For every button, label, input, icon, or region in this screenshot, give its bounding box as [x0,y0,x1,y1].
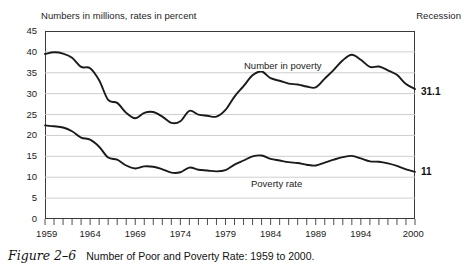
chart-units-note: Numbers in millions, rates in percent [41,10,197,22]
series-line-number-in-poverty [45,52,415,123]
x-axis-tick-label: 1984 [260,228,281,239]
x-axis-tick-label: 2000 [403,228,424,239]
y-axis-tick-label: 30 [26,89,37,99]
y-axis-tick-label: 20 [26,130,37,140]
end-value-number-in-poverty: 31.1 [421,86,440,97]
y-axis-tick-label: 40 [26,47,37,57]
chart: Numbers in millions, rates in percent Re… [0,0,472,243]
series-line-poverty-rate [45,125,415,173]
figure-container: Numbers in millions, rates in percent Re… [0,0,472,274]
x-axis-tick-label: 1979 [215,228,236,239]
figure-caption: Figure 2–6 Number of Poor and Poverty Ra… [8,248,468,270]
figure-number: Figure 2–6 [8,248,76,263]
x-axis-ticks [45,219,415,225]
y-axis-labels: 051015202530354045 [0,31,41,219]
x-axis-tick-label: 1959 [36,228,57,239]
y-axis-tick-label: 15 [26,151,37,161]
x-axis-tick-label: 1989 [305,228,326,239]
y-axis-tick-label: 35 [26,68,37,78]
series-label-poverty-rate: Poverty rate [250,178,303,189]
y-axis-tick-label: 0 [32,214,37,224]
recession-legend-label: Recession [416,10,461,22]
plot-svg [45,31,415,219]
figure-caption-text: Number of Poor and Poverty Rate: 1959 to… [86,250,314,262]
x-axis-tick-label: 1969 [125,228,146,239]
y-axis-tick-label: 5 [32,193,37,203]
x-axis-tick-label: 1994 [350,228,371,239]
end-value-poverty-rate: 11 [421,166,432,177]
gridlines [45,52,415,198]
x-axis-labels: 195919641969197419791984198919942000 [45,228,415,242]
y-axis-tick-label: 25 [26,110,37,120]
y-axis-tick-label: 10 [26,172,37,182]
y-axis-tick-label: 45 [26,26,37,36]
series-label-number-in-poverty: Number in poverty [243,60,323,71]
x-axis-tick-label: 1974 [170,228,191,239]
x-axis-tick-label: 1964 [80,228,101,239]
